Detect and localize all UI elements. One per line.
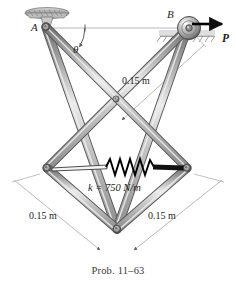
label-dim-lower-right: 0.15 m — [148, 210, 176, 221]
spring-icon — [106, 159, 154, 175]
scissor-linkage-diagram: A B θ P 0.15 m k = 750 N/m 0.15 m 0.15 m… — [0, 0, 236, 294]
pin-joints — [43, 24, 191, 233]
label-point-b: B — [167, 8, 174, 20]
figure-caption: Prob. 11–63 — [91, 265, 144, 276]
roller-wheel-b — [178, 17, 201, 40]
label-dim-lower-left: 0.15 m — [29, 210, 57, 221]
figure-container: A B θ P 0.15 m k = 750 N/m 0.15 m 0.15 m… — [0, 0, 236, 294]
dim-ext-lower-right — [194, 174, 224, 182]
label-point-a: A — [30, 21, 38, 33]
spring-assembly — [52, 159, 184, 175]
label-angle-theta: θ — [73, 43, 79, 55]
dim-ext-lower-left — [12, 174, 40, 182]
label-force-p: P — [222, 32, 230, 44]
label-spring-constant: k = 750 N/m — [88, 182, 141, 193]
label-dim-upper-right: 0.15 m — [122, 75, 150, 86]
